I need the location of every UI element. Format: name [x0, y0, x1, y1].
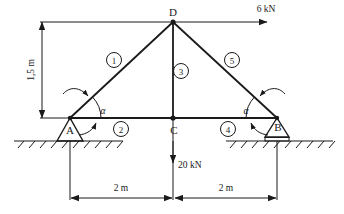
member-3-badge: 3	[174, 64, 189, 79]
member-5-badge: 5	[225, 53, 240, 68]
node-label-d: D	[169, 6, 177, 18]
horizontal-load-label: 6 kN	[257, 4, 276, 14]
member-1-badge: 1	[107, 53, 122, 68]
node-label-a: A	[66, 124, 74, 136]
member-4-badge: 4	[221, 122, 236, 137]
angle-at-b-label: α	[244, 106, 250, 116]
height-dimension	[40, 22, 170, 118]
pointer-arrow-member-2	[79, 123, 96, 135]
vertical-load-label: 20 kN	[178, 160, 202, 170]
ground-hatching-right	[226, 141, 335, 148]
truss-diagram-figure: 6 kN 20 kN D C A B 1 2 3 4 5	[0, 0, 344, 214]
member-5-badge-label: 5	[230, 56, 235, 66]
angle-at-a-label: α	[101, 106, 107, 116]
pointer-arrow-member-1	[63, 89, 88, 96]
member-2-badge-label: 2	[119, 125, 124, 135]
member-2-badge: 2	[114, 122, 129, 137]
member-3-badge-label: 3	[179, 67, 184, 77]
span-right-dimension-label: 2 m	[219, 183, 234, 193]
node-label-c: C	[170, 124, 177, 136]
height-dimension-label: 1,5 m	[26, 59, 36, 81]
truss-diagram-canvas: 6 kN 20 kN D C A B 1 2 3 4 5	[0, 0, 344, 214]
pointer-arrow-member-4	[251, 123, 268, 135]
member-4-badge-label: 4	[226, 125, 231, 135]
node-label-b: B	[274, 121, 281, 133]
member-1-line	[70, 22, 173, 118]
pointer-arrow-member-5	[260, 89, 285, 96]
span-dimension-extension-lines	[70, 141, 277, 200]
ground-hatching-left	[14, 141, 123, 148]
member-1-badge-label: 1	[112, 56, 117, 66]
span-left-dimension-label: 2 m	[114, 183, 129, 193]
